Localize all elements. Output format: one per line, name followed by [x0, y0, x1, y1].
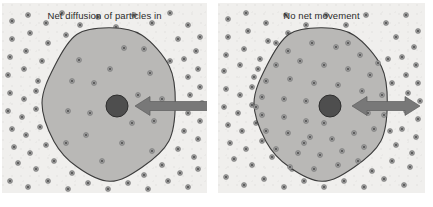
particle [38, 125, 43, 130]
particle-core [197, 138, 199, 140]
particle-core [389, 130, 391, 132]
particle-core [227, 124, 229, 126]
particle-core [311, 42, 313, 44]
particle [342, 179, 347, 184]
panel-right-graphics [218, 3, 425, 193]
particle-core [267, 40, 269, 42]
particle [322, 63, 327, 68]
particle [66, 187, 71, 192]
particle [376, 61, 381, 66]
particle-core [187, 76, 189, 78]
particle-core [401, 56, 403, 58]
particle-core [229, 142, 231, 144]
particle [150, 21, 155, 26]
particle [198, 119, 203, 124]
particle [166, 179, 171, 184]
particle-core [127, 182, 129, 184]
particle [362, 185, 367, 190]
particle-core [187, 186, 189, 188]
particle [382, 177, 387, 182]
particle [322, 121, 327, 126]
particle [254, 105, 259, 110]
particle-core [39, 126, 41, 128]
particle-core [409, 166, 411, 168]
particle-core [89, 112, 91, 114]
particle-core [23, 98, 25, 100]
particle [304, 119, 309, 124]
particle [34, 89, 39, 94]
particle-core [305, 100, 307, 102]
nucleus [319, 95, 341, 117]
particle-core [45, 144, 47, 146]
particle-core [383, 178, 385, 180]
particle [78, 23, 83, 28]
particle [288, 165, 293, 170]
particle [194, 49, 199, 54]
particle [186, 111, 191, 116]
particle [346, 41, 351, 46]
particle-core [53, 160, 55, 162]
particle [150, 149, 155, 154]
particle-core [35, 168, 37, 170]
particle [260, 113, 265, 118]
particle [186, 23, 191, 28]
particle-core [257, 68, 259, 70]
particle-core [153, 120, 155, 122]
particle [416, 29, 421, 34]
particle [176, 147, 181, 152]
particle-core [223, 70, 225, 72]
particle [382, 113, 387, 118]
particle-core [357, 160, 359, 162]
particle [70, 171, 75, 176]
nucleus [106, 95, 128, 117]
particle-core [331, 138, 333, 140]
particle-core [47, 180, 49, 182]
particle [356, 159, 361, 164]
particle-core [259, 58, 261, 60]
particle [176, 37, 181, 42]
particle-core [403, 184, 405, 186]
particle-core [187, 24, 189, 26]
particle [84, 133, 89, 138]
particle-core [255, 122, 257, 124]
particle [282, 115, 287, 120]
particle-core [411, 152, 413, 154]
particle-core [271, 156, 273, 158]
particle-core [261, 140, 263, 142]
particle-core [37, 80, 39, 82]
particle [130, 121, 135, 126]
particle-core [71, 172, 73, 174]
particle [308, 135, 313, 140]
particle [264, 21, 269, 26]
particle [344, 23, 349, 28]
particle [178, 171, 183, 176]
particle-core [265, 80, 267, 82]
particle [416, 117, 421, 122]
particle [246, 29, 251, 34]
particle [186, 75, 191, 80]
particle [330, 137, 335, 142]
particle [418, 99, 423, 104]
particle-core [335, 46, 337, 48]
particle-core [337, 84, 339, 86]
particle-core [47, 42, 49, 44]
particle-core [263, 178, 265, 180]
particle-core [395, 36, 397, 38]
particle [384, 21, 389, 26]
particle-core [353, 132, 355, 134]
particle-core [25, 134, 27, 136]
particle-core [419, 100, 421, 102]
particle [10, 127, 15, 132]
particle-core [9, 180, 11, 182]
particle [298, 59, 303, 64]
particle [196, 137, 201, 142]
particle [10, 37, 15, 42]
particle [224, 87, 229, 92]
particle [362, 145, 367, 150]
particle [322, 185, 327, 190]
particle-core [319, 154, 321, 156]
particle-core [189, 94, 191, 96]
particle-core [347, 42, 349, 44]
particle [88, 111, 93, 116]
particle-core [243, 184, 245, 186]
